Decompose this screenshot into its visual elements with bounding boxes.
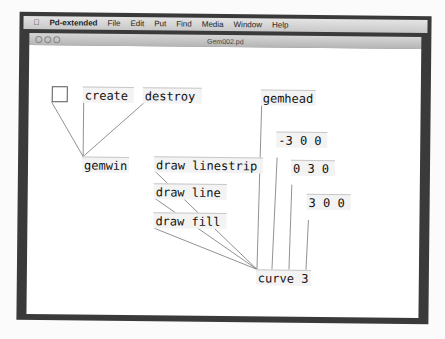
screen:  Pd-extended File Edit Put Find Media W… <box>16 12 431 324</box>
apple-icon[interactable]:  <box>33 18 39 27</box>
menu-put[interactable]: Put <box>154 19 166 28</box>
message-3-0-0[interactable]: 3 0 0 <box>307 194 351 210</box>
menu-find[interactable]: Find <box>176 19 192 28</box>
menu-app[interactable]: Pd-extended <box>49 18 97 28</box>
menu-help[interactable]: Help <box>272 20 289 29</box>
draw-linestrip-message[interactable]: draw linestrip <box>154 156 263 173</box>
gemwin-object[interactable]: gemwin <box>82 157 130 173</box>
destroy-message[interactable]: destroy <box>143 87 202 104</box>
menu-media[interactable]: Media <box>202 20 224 29</box>
create-message[interactable]: create <box>83 87 135 104</box>
menu-window[interactable]: Window <box>234 20 263 29</box>
gemhead-object[interactable]: gemhead <box>261 89 316 106</box>
toggle[interactable] <box>52 86 68 102</box>
draw-fill-message[interactable]: draw fill <box>153 212 226 229</box>
draw-line-message[interactable]: draw line <box>154 183 227 200</box>
menubar:  Pd-extended File Edit Put Find Media W… <box>23 16 427 33</box>
message-neg3-0-0[interactable]: -3 0 0 <box>276 132 328 149</box>
patch-canvas[interactable]: create destroy gemwin gemhead -3 0 0 0 3… <box>26 45 421 318</box>
menu-file[interactable]: File <box>107 19 120 28</box>
message-0-3-0[interactable]: 0 3 0 <box>291 160 335 176</box>
curve-object[interactable]: curve 3 <box>256 269 311 286</box>
menu-edit[interactable]: Edit <box>130 19 144 28</box>
